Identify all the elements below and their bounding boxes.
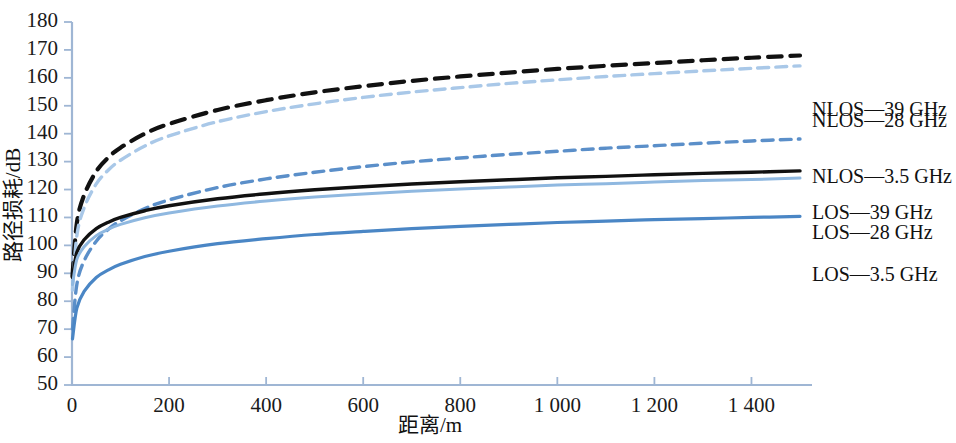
x-tick-label: 400	[250, 393, 282, 417]
chart-svg: 5060708090100110120130140150160170180 02…	[0, 0, 956, 443]
curve-nlos-3.5-ghz	[72, 139, 800, 329]
curve-nlos-28-ghz	[72, 66, 800, 290]
y-tick-label: 60	[37, 343, 58, 367]
y-axis-ticks: 5060708090100110120130140150160170180	[27, 8, 73, 395]
y-tick-label: 140	[27, 120, 59, 144]
x-tick-label: 1 000	[534, 393, 581, 417]
path-loss-chart: 5060708090100110120130140150160170180 02…	[0, 0, 956, 443]
y-tick-label: 180	[27, 8, 59, 32]
series-label-los-3.5-ghz: LOS—3.5 GHz	[812, 263, 938, 285]
y-tick-label: 110	[27, 203, 58, 227]
y-tick-label: 160	[27, 64, 59, 88]
y-tick-label: 80	[37, 287, 58, 311]
x-tick-label: 200	[153, 393, 185, 417]
y-tick-label: 130	[27, 147, 59, 171]
y-tick-label: 70	[37, 315, 58, 339]
curve-los-28-ghz	[72, 178, 800, 284]
y-tick-label: 150	[27, 92, 59, 116]
x-axis-ticks: 02004006008001 0001 2001 400	[67, 377, 775, 417]
x-tick-label: 1 400	[728, 393, 775, 417]
series-label-nlos-28-ghz: NLOS—28 GHz	[812, 109, 947, 131]
y-tick-label: 50	[37, 371, 58, 395]
curve-los-3.5-ghz	[72, 216, 800, 339]
x-tick-label: 1 200	[631, 393, 678, 417]
data-curves	[72, 56, 800, 339]
series-labels: NLOS—39 GHzNLOS—28 GHzNLOS—3.5 GHzLOS—39…	[804, 56, 952, 285]
series-label-los-28-ghz: LOS—28 GHz	[812, 221, 933, 243]
y-tick-label: 100	[27, 231, 59, 255]
x-tick-label: 600	[347, 393, 379, 417]
curve-los-39-ghz	[72, 171, 800, 278]
series-label-nlos-3.5-ghz: NLOS—3.5 GHz	[812, 165, 952, 187]
y-tick-label: 90	[37, 259, 58, 283]
x-axis-title: 距离/m	[398, 413, 462, 437]
y-tick-label: 170	[27, 36, 59, 60]
x-tick-label: 0	[67, 393, 78, 417]
y-tick-label: 120	[27, 175, 59, 199]
y-axis-title: 路径损耗/dB	[1, 148, 25, 262]
